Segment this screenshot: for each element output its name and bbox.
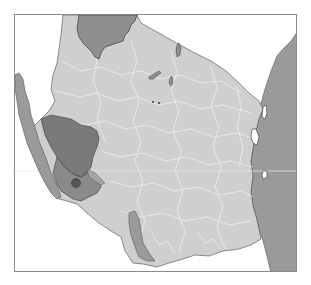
small-lake-1 <box>176 43 181 57</box>
highlight-point <box>72 179 81 188</box>
small-lake-5 <box>158 102 160 104</box>
small-lake-4 <box>152 101 154 103</box>
map-canvas <box>15 15 297 272</box>
map-frame <box>14 14 297 272</box>
